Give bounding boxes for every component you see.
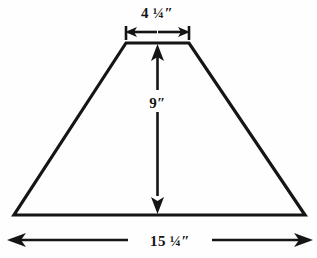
trapezoid-diagram: 4 ¼″ 9″ 15 ¼″ xyxy=(0,0,317,258)
top-dimension-group: 4 ¼″ xyxy=(125,5,190,40)
height-dimension-group: 9″ xyxy=(149,44,165,214)
bottom-dimension-group: 15 ¼″ xyxy=(7,233,313,249)
height-dimension-arrowhead-bottom xyxy=(151,197,164,214)
height-dimension-label: 9″ xyxy=(149,95,165,111)
bottom-dimension-label: 15 ¼″ xyxy=(150,233,190,249)
diagram-canvas: 4 ¼″ 9″ 15 ¼″ xyxy=(0,0,317,258)
top-dimension-label: 4 ¼″ xyxy=(141,5,173,21)
trapezoid-outline xyxy=(14,43,305,215)
trapezoid-shape xyxy=(14,43,305,215)
